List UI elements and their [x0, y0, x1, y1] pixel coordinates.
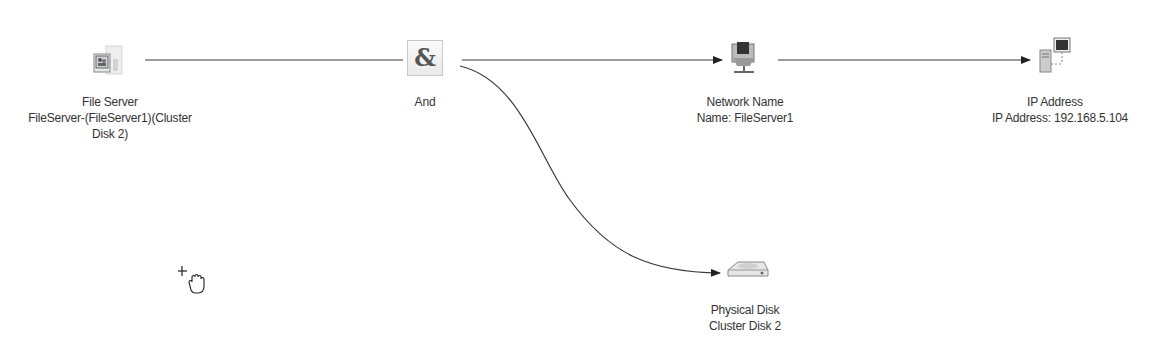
node-subtitle-cont: Disk 2) — [40, 126, 180, 142]
and-operator-icon: & — [407, 40, 443, 76]
node-subtitle: Cluster Disk 2 — [680, 318, 810, 334]
node-title: Network Name — [680, 94, 810, 110]
edges-layer — [0, 0, 1162, 360]
node-title: Physical Disk — [680, 302, 810, 318]
node-title: IP Address — [990, 94, 1120, 110]
node-title: File Server — [40, 94, 180, 110]
node-subtitle: FileServer-(FileServer1)(Cluster — [0, 110, 220, 126]
node-subtitle: Name: FileServer1 — [670, 110, 820, 126]
physical-disk-icon — [724, 258, 770, 284]
network-name-icon — [728, 40, 760, 76]
node-title: And — [375, 94, 475, 110]
node-subtitle: IP Address: 192.168.5.104 — [975, 110, 1145, 126]
ip-address-icon — [1037, 36, 1073, 76]
hand-move-cursor-icon — [178, 266, 218, 296]
file-server-icon — [92, 44, 126, 78]
